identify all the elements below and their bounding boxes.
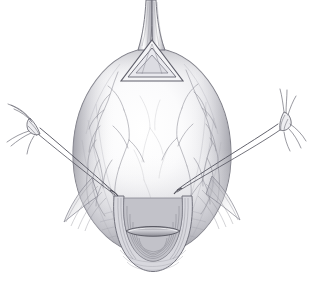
surgical-illustration (0, 0, 315, 286)
illustration-canvas: Uterine body shown in anterior view; a t… (0, 0, 315, 286)
